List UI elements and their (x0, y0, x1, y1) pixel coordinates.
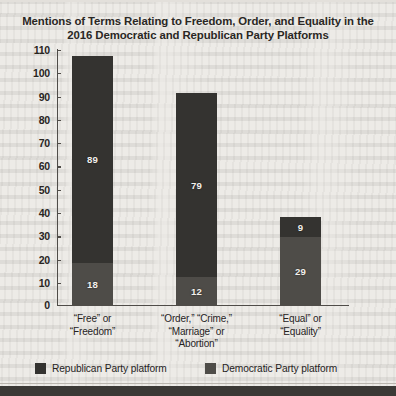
y-tick-label-100: 100 (16, 68, 50, 78)
y-axis-line (57, 49, 58, 306)
y-tick-label-20: 20 (16, 255, 50, 265)
x-axis-line (57, 305, 349, 306)
x-axis-label-line-1: “Equal” or (241, 313, 361, 326)
legend-swatch-democratic-icon (205, 363, 216, 374)
x-axis-label-free-freedom: “Free” or “Freedom” (33, 313, 153, 338)
y-tick-mark-60 (57, 166, 61, 167)
legend-swatch-republican-icon (35, 363, 46, 374)
bar-group-equal-equality[interactable]: 9 29 (280, 217, 321, 305)
y-tick-label-50: 50 (16, 185, 50, 195)
bar-value-democratic: 29 (295, 266, 306, 277)
y-tick-mark-80 (57, 120, 61, 121)
x-axis-label-line-2: “Freedom” (33, 326, 153, 339)
legend-label-republican: Republican Party platform (52, 363, 167, 374)
legend-item-republican[interactable]: Republican Party platform (35, 363, 167, 374)
y-tick-label-40: 40 (16, 208, 50, 218)
bar-value-republican: 79 (191, 180, 202, 191)
bar-value-republican: 9 (298, 222, 303, 233)
x-axis-label-order-crime-marriage-abortion: “Order,” “Crime,” “Marriage” or “Abortio… (137, 313, 257, 351)
x-axis-label-equal-equality: “Equal” or “Equality” (241, 313, 361, 338)
bar-segment-democratic[interactable]: 29 (280, 237, 321, 305)
legend-label-democratic: Democratic Party platform (222, 363, 337, 374)
y-tick-label-110: 110 (16, 45, 50, 55)
bar-value-democratic: 18 (87, 279, 98, 290)
plot-area: 110 100 90 80 70 60 50 40 30 20 10 0 89 … (0, 0, 396, 396)
x-axis-label-line-2: “Marriage” or (137, 326, 257, 339)
bar-value-republican: 89 (87, 154, 98, 165)
page-footer-rule (0, 383, 396, 384)
x-axis-label-line-3: “Abortion” (137, 338, 257, 351)
y-tick-mark-10 (57, 283, 61, 284)
page-footer-band (0, 386, 396, 396)
x-axis-label-line-1: “Free” or (33, 313, 153, 326)
bar-value-democratic: 12 (191, 286, 202, 297)
y-tick-label-60: 60 (16, 161, 50, 171)
bar-group-order-crime-marriage-abortion[interactable]: 79 12 (176, 93, 217, 305)
bar-segment-republican[interactable]: 79 (176, 93, 217, 277)
y-tick-mark-20 (57, 260, 61, 261)
x-axis-label-line-1: “Order,” “Crime,” (137, 313, 257, 326)
legend-item-democratic[interactable]: Democratic Party platform (205, 363, 337, 374)
bar-group-free-freedom[interactable]: 89 18 (72, 56, 113, 305)
y-tick-mark-110 (57, 50, 61, 51)
y-tick-mark-0 (57, 305, 61, 306)
y-tick-mark-40 (57, 213, 61, 214)
chart-page: Mentions of Terms Relating to Freedom, O… (0, 0, 396, 396)
bar-segment-democratic[interactable]: 12 (176, 277, 217, 305)
chart-legend: Republican Party platform Democratic Par… (0, 363, 396, 377)
bar-segment-democratic[interactable]: 18 (72, 263, 113, 305)
x-axis-label-line-2: “Equality” (241, 326, 361, 339)
y-tick-label-70: 70 (16, 138, 50, 148)
y-tick-label-30: 30 (16, 231, 50, 241)
y-tick-label-10: 10 (16, 278, 50, 288)
y-tick-mark-70 (57, 143, 61, 144)
y-tick-mark-90 (57, 97, 61, 98)
bar-segment-republican[interactable]: 89 (72, 56, 113, 263)
y-tick-mark-50 (57, 190, 61, 191)
y-tick-label-90: 90 (16, 92, 50, 102)
y-tick-mark-100 (57, 73, 61, 74)
y-tick-label-0: 0 (16, 300, 50, 310)
y-tick-mark-30 (57, 236, 61, 237)
y-tick-label-80: 80 (16, 115, 50, 125)
bar-segment-republican[interactable]: 9 (280, 217, 321, 238)
